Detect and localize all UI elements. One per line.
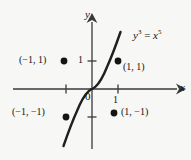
point-marker-neg1-1 bbox=[61, 58, 68, 65]
point-label-neg1-neg1: (−1, −1) bbox=[12, 107, 45, 117]
point-marker-1-1 bbox=[115, 58, 122, 65]
coordinate-plot bbox=[0, 0, 191, 160]
origin-label: 0 bbox=[85, 91, 91, 102]
equation-lhs-exponent: 3 bbox=[138, 28, 142, 36]
point-label-neg1-1: (−1, 1) bbox=[19, 55, 46, 65]
point-label-1-1: (1, 1) bbox=[123, 62, 145, 72]
y-tick-label-one: 1 bbox=[78, 55, 83, 65]
x-axis-label: x bbox=[180, 82, 185, 93]
point-label-1-neg1: (1, −1) bbox=[121, 107, 148, 117]
graph-figure: y x 0 1 1 y3 = x5 (−1, 1) (1, 1) (−1, −1… bbox=[0, 0, 191, 160]
equation-operator: = bbox=[144, 29, 150, 41]
point-marker-neg1-neg1 bbox=[63, 114, 70, 121]
x-tick-label-one: 1 bbox=[113, 95, 118, 105]
point-marker-1-neg1 bbox=[111, 110, 118, 117]
y-axis-label: y bbox=[85, 9, 90, 20]
curve-equation-label: y3 = x5 bbox=[133, 30, 162, 41]
equation-rhs-exponent: 5 bbox=[158, 28, 162, 36]
